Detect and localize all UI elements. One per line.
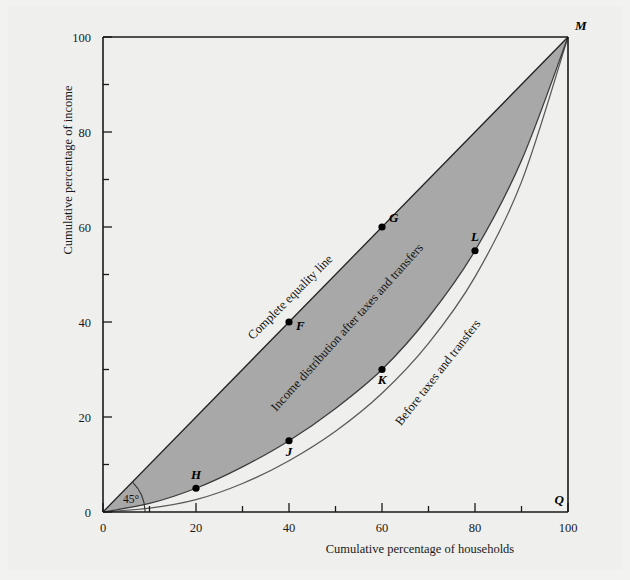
point-label-h: H <box>190 467 202 482</box>
y-tick-label: 80 <box>79 126 92 140</box>
y-tick-label: 0 <box>85 506 91 520</box>
x-tick-label: 80 <box>469 521 482 535</box>
y-tick-label: 20 <box>79 411 92 425</box>
y-tick-label: 40 <box>79 316 92 330</box>
point-label-k: K <box>377 372 388 387</box>
y-axis-ticks <box>103 37 112 512</box>
point-label-g: G <box>389 210 399 225</box>
point-label-f: F <box>295 318 305 333</box>
point-label-j: J <box>285 444 293 459</box>
x-axis-tick-labels: 020406080100 <box>100 521 578 535</box>
x-tick-label: 100 <box>559 521 578 535</box>
complete-equality-line <box>103 37 568 512</box>
x-tick-label: 0 <box>100 521 106 535</box>
x-tick-label: 60 <box>376 521 389 535</box>
data-point-g <box>378 223 385 230</box>
x-tick-label: 40 <box>283 521 296 535</box>
chart-svg: 020406080100 020406080100 MGFQLKJH Compl… <box>0 0 630 580</box>
y-axis-title: Cumulative percentage of income <box>61 85 75 254</box>
data-point-f <box>285 318 292 325</box>
y-axis-tick-labels: 020406080100 <box>72 31 91 520</box>
point-label-q: Q <box>555 492 565 507</box>
angle-label: 45° <box>123 493 140 505</box>
data-point-l <box>471 247 478 254</box>
data-point-h <box>192 485 199 492</box>
y-tick-label: 100 <box>72 31 91 45</box>
point-label-l: L <box>470 229 479 244</box>
point-label-m: M <box>574 18 587 33</box>
x-tick-label: 20 <box>190 521 203 535</box>
y-tick-label: 60 <box>79 221 92 235</box>
lorenz-curve-figure: 020406080100 020406080100 MGFQLKJH Compl… <box>0 0 630 580</box>
x-axis-title: Cumulative percentage of households <box>326 542 515 556</box>
